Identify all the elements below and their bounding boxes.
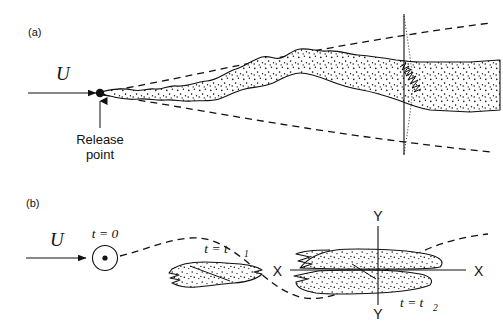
axis-y-bottom-label: Y	[373, 306, 383, 322]
release-point-dot	[96, 89, 104, 97]
t0-label: t = 0	[92, 226, 119, 241]
t1-label-subscript: 1	[244, 249, 249, 259]
axis-x-right-label: X	[474, 263, 484, 279]
panel-a-label: (a)	[28, 26, 41, 38]
panel-a-flow-label: U	[56, 63, 71, 84]
axis-y-top-label: Y	[373, 208, 383, 224]
panel-b-flow-label: U	[50, 229, 65, 250]
dispersion-figure: (a) U Release point	[0, 0, 503, 326]
axis-x-left-label: X	[273, 263, 283, 279]
release-label-line1: Release	[76, 132, 124, 147]
t2-label: t = t	[400, 295, 425, 310]
release-label-line2: point	[86, 147, 115, 162]
figure-container: (a) U Release point	[0, 0, 503, 326]
t1-label: t = t	[204, 241, 229, 256]
panel-b-label: (b)	[26, 197, 39, 209]
t2-label-subscript: 2	[433, 303, 438, 313]
initial-puff-center-dot	[102, 255, 107, 260]
